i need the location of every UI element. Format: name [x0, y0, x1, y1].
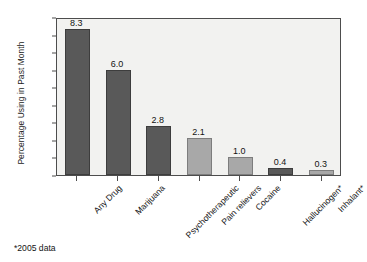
bar-value-label: 6.0 [111, 59, 124, 69]
bar-value-label: 1.0 [233, 146, 246, 156]
x-category-label: Any Drug [92, 183, 124, 215]
bar-value-label: 2.8 [152, 115, 165, 125]
footnote: *2005 data [14, 243, 56, 253]
x-tick-mark [321, 176, 322, 181]
x-tick-mark [239, 176, 240, 181]
x-tick-mark [158, 176, 159, 181]
x-tick-mark [280, 176, 281, 181]
bar-value-label: 8.3 [70, 18, 83, 28]
bar-value-label: 0.4 [274, 157, 287, 167]
bar [146, 126, 171, 175]
bar-value-label: 2.1 [192, 127, 205, 137]
x-category-label: Marijuana [133, 183, 167, 217]
bar [268, 168, 293, 175]
x-tick-mark [117, 176, 118, 181]
plot-area [56, 18, 341, 176]
bar [65, 29, 90, 175]
bar [309, 170, 334, 175]
bar [228, 157, 253, 175]
bar [106, 70, 131, 175]
bar-value-label: 0.3 [314, 159, 327, 169]
x-tick-mark [76, 176, 77, 181]
y-axis-title: Percentage Using in Past Month [16, 18, 26, 188]
bar [187, 138, 212, 175]
x-tick-mark [199, 176, 200, 181]
